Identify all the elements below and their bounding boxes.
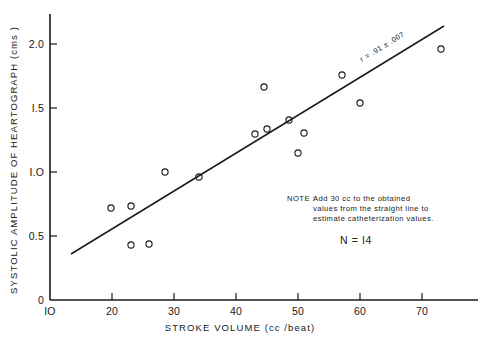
scatter-chart: 2.0 I.5 I.O 0.5 0 IO 20 30 40 50 60 70 S…	[0, 0, 485, 341]
chart-canvas: 2.0 I.5 I.O 0.5 0 IO 20 30 40 50 60 70 S…	[0, 0, 485, 341]
x-tick-label-20: 20	[106, 305, 118, 317]
y-tick-label-0_5: 0.5	[29, 230, 44, 242]
note-prefix-label: NOTE :	[287, 194, 315, 203]
chart-background	[0, 0, 485, 341]
y-tick-label-1: I.O	[29, 166, 44, 178]
x-axis-title: STROKE VOLUME (cc /beat)	[165, 322, 315, 333]
x-tick-label-70: 70	[416, 305, 428, 317]
sample-size-label: N = I4	[340, 234, 372, 246]
note-line-2: values from the straight line to	[313, 204, 429, 213]
x-tick-label-50: 50	[292, 305, 304, 317]
x-tick-label-40: 40	[230, 305, 242, 317]
x-tick-label-60: 60	[354, 305, 366, 317]
note-line-1: Add 30 cc to the obtained	[313, 194, 410, 203]
y-tick-label-1_5: I.5	[32, 102, 44, 114]
y-axis-title: SYSTOLIC AMPLITUDE OF HEARTOGRAPH (cms )	[8, 26, 19, 294]
x-tick-label-30: 30	[168, 305, 180, 317]
x-tick-label-10: IO	[44, 305, 56, 317]
y-tick-label-0: 0	[38, 294, 44, 306]
note-line-3: estimate catheterization values.	[313, 214, 434, 223]
y-tick-label-2: 2.0	[29, 38, 44, 50]
